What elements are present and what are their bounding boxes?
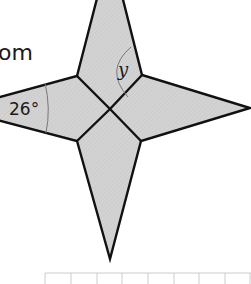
variable-label-y: y [117,59,129,80]
star-outline [0,0,250,259]
diagram-stage: om 26° y [0,0,251,284]
answer-grid [45,273,251,284]
angle-label-26: 26° [9,99,39,119]
partial-question-text: om [0,40,33,66]
star-figure: 26° y [0,0,251,284]
